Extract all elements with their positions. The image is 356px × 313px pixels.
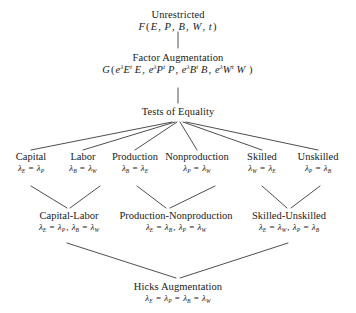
edge-skilled-to-su [262,186,287,208]
node-production-nonproduction: Production-Nonproduction λE = λB, λP = λ… [119,210,232,233]
edge-skilled-unskilled-to-hicks [180,243,288,278]
nonproduction-condition: λP = λW [165,163,229,174]
labor-condition: λB = λW [69,163,96,174]
edge-tests-to-unskilled [186,122,318,150]
unrestricted-label: Unrestricted [139,9,218,21]
node-unskilled: Unskilled λP = λB [298,151,339,174]
edge-tests-to-production [135,122,177,150]
capital-condition: λE = λP [16,163,46,174]
skilled-unskilled-label: Skilled-Unskilled [252,210,326,222]
node-production: Production λB = λE [112,151,158,174]
skilled-unskilled-condition: λE = λW, λP = λB [252,222,326,233]
production-condition: λB = λE [112,163,158,174]
labor-label: Labor [69,151,96,163]
node-factor-augmentation: Factor Augmentation G(eλEt E, eλPt P, eλ… [102,52,253,77]
capital-labor-condition: λE = λP, λB = λW [39,222,99,233]
edge-capital-to-capital-labor [31,186,67,208]
node-tests-of-equality: Tests of Equality [142,106,215,118]
production-label: Production [112,151,158,163]
node-hicks-augmentation: Hicks Augmentation λE = λP = λB = λW [134,281,222,304]
hicks-augmentation-label: Hicks Augmentation [134,281,222,293]
node-capital-labor: Capital-Labor λE = λP, λB = λW [39,210,99,233]
factor-augmentation-label: Factor Augmentation [102,52,253,64]
unskilled-label: Unskilled [298,151,339,163]
edge-tests-to-capital [31,122,172,150]
capital-label: Capital [16,151,46,163]
node-unrestricted: Unrestricted F(E, P, B, W, t) [139,9,218,34]
hicks-augmentation-condition: λE = λP = λB = λW [134,293,222,304]
node-labor: Labor λB = λW [69,151,96,174]
edge-labor-to-capital-labor [70,186,100,208]
node-skilled: Skilled λW = λE [247,151,277,174]
production-nonproduction-condition: λE = λB, λP = λW [119,222,232,233]
skilled-condition: λW = λE [247,163,277,174]
capital-labor-label: Capital-Labor [39,210,99,222]
edge-production-to-pn [137,186,166,208]
node-capital: Capital λE = λP [16,151,46,174]
edge-unskilled-to-su [291,186,320,208]
unrestricted-formula: F(E, P, B, W, t) [139,21,218,33]
nonproduction-label: Nonproduction [165,151,229,163]
node-skilled-unskilled: Skilled-Unskilled λE = λW, λP = λB [252,210,326,233]
node-nonproduction: Nonproduction λP = λW [165,151,229,174]
edge-capital-labor-to-hicks [67,243,176,278]
edge-tests-to-labor [83,122,175,150]
factor-augmentation-hierarchy-diagram: Unrestricted F(E, P, B, W, t) Factor Aug… [0,0,356,313]
production-nonproduction-label: Production-Nonproduction [119,210,232,222]
edge-nonproduction-to-pn [170,186,215,208]
unskilled-condition: λP = λB [298,163,339,174]
skilled-label: Skilled [247,151,277,163]
tests-of-equality-label: Tests of Equality [142,106,215,118]
factor-augmentation-formula: G(eλEt E, eλPt P, eλBt B, eλWt W ) [102,64,253,76]
